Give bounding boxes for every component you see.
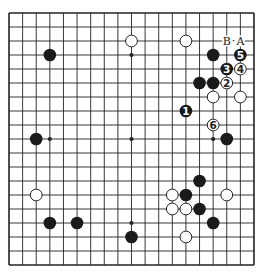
black-stone xyxy=(44,217,57,230)
black-stone xyxy=(193,77,206,90)
black-stone xyxy=(207,77,220,90)
point-labels: B·A xyxy=(222,35,245,48)
black-stone xyxy=(207,217,220,230)
go-board: 534216 B·A xyxy=(0,0,262,276)
white-stone: 6 xyxy=(207,119,219,131)
white-stone xyxy=(166,189,178,201)
point-label: B xyxy=(223,35,231,48)
white-stone: 4 xyxy=(234,63,246,75)
white-stone xyxy=(30,189,42,201)
move-number: 5 xyxy=(237,49,244,61)
black-stone xyxy=(193,175,206,188)
white-stone xyxy=(166,203,178,215)
move-number: 1 xyxy=(182,105,189,117)
black-stone xyxy=(71,217,84,230)
white-stone xyxy=(180,231,192,243)
black-stone xyxy=(44,49,57,62)
star-point xyxy=(48,137,52,141)
white-stone: 2 xyxy=(221,77,233,89)
move-number: 6 xyxy=(209,119,216,131)
black-stone: 3 xyxy=(220,63,233,76)
white-stone xyxy=(234,91,246,103)
black-stone: 5 xyxy=(234,49,247,62)
white-stone xyxy=(180,35,192,47)
white-stone xyxy=(207,91,219,103)
black-stone xyxy=(180,189,193,202)
black-stone xyxy=(30,133,43,146)
black-stone: 1 xyxy=(180,105,193,118)
star-point xyxy=(129,221,133,225)
star-point xyxy=(211,137,215,141)
white-stone xyxy=(180,203,192,215)
black-stone xyxy=(125,231,138,244)
black-stone xyxy=(193,203,206,216)
black-stone xyxy=(207,49,220,62)
white-stone xyxy=(126,35,138,47)
black-stone xyxy=(220,133,233,146)
white-stone xyxy=(221,189,233,201)
move-number: 4 xyxy=(237,63,244,75)
point-label: · xyxy=(232,35,236,48)
point-label: A xyxy=(235,35,245,48)
move-number: 2 xyxy=(223,77,230,89)
move-number: 3 xyxy=(223,63,230,75)
star-point xyxy=(129,137,133,141)
star-point xyxy=(129,53,133,57)
